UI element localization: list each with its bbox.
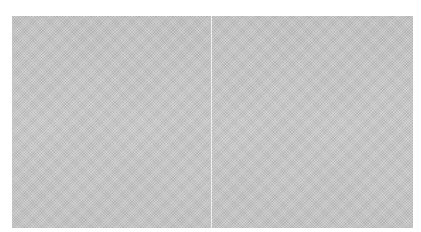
left-gray-panel — [12, 16, 211, 228]
right-gray-panel — [212, 16, 413, 228]
